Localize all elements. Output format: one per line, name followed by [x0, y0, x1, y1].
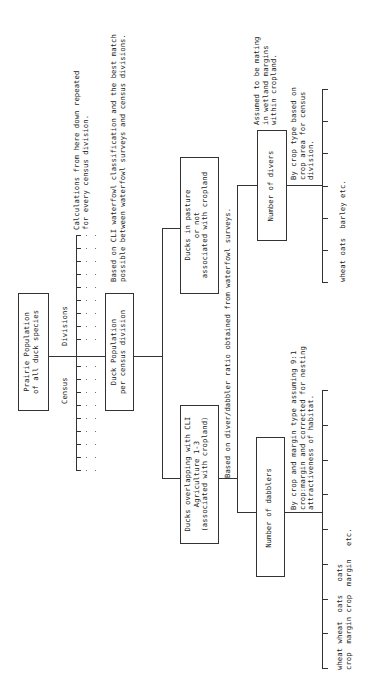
census-tick	[76, 326, 81, 327]
crop-tick	[322, 564, 328, 565]
dabblers-leaves-line2: crop margin crop margin etc.	[345, 528, 354, 670]
cli-note: Based on CLI waterfowl classification an…	[110, 34, 127, 282]
overlap-label: Ducks overlapping with CLI Agriculture 1…	[184, 408, 210, 540]
continuation-dot	[95, 300, 96, 301]
census-tick	[76, 235, 81, 236]
continuation-dot	[86, 457, 87, 458]
dabblers-note: By crop and margin type assuming 9:1 cro…	[290, 346, 316, 510]
continuation-dot	[86, 287, 87, 288]
crop-tick	[322, 599, 328, 600]
divers-label: Number of divers	[267, 150, 276, 222]
split-line-2	[237, 185, 238, 513]
divers-crop-note: By crop type based on crop area for cens…	[290, 87, 316, 180]
continuation-dot	[95, 287, 96, 288]
census-tick	[76, 457, 81, 458]
continuation-dot	[95, 366, 96, 367]
census-label: Census	[61, 377, 70, 404]
crop-tick	[322, 153, 328, 154]
continuation-dot	[95, 418, 96, 419]
continuation-dot	[86, 339, 87, 340]
crop-tick	[322, 186, 328, 187]
crop-tick	[322, 121, 328, 122]
divisions-label: Divisions	[61, 306, 70, 346]
crop-tick	[322, 668, 328, 669]
prairie-population-label: Prairie Population of all duck species	[23, 295, 40, 409]
crop-tick	[322, 425, 328, 426]
census-tick	[76, 418, 81, 419]
repeat-note: Calculations from here down repeated for…	[73, 71, 90, 230]
census-tick	[76, 379, 81, 380]
continuation-dot	[95, 235, 96, 236]
continuation-dot	[95, 248, 96, 249]
pasture-label: Ducks in pasture or not associated with …	[184, 160, 210, 290]
census-tick	[76, 274, 81, 275]
census-tick	[76, 405, 81, 406]
continuation-dot	[95, 392, 96, 393]
crop-tick	[322, 460, 328, 461]
continuation-dot	[95, 405, 96, 406]
census-tick	[76, 444, 81, 445]
connector-dabblers-out	[285, 512, 322, 513]
census-division-axis	[76, 235, 77, 471]
census-tick	[76, 431, 81, 432]
continuation-dot	[95, 274, 96, 275]
census-tick	[76, 366, 81, 367]
connector-dabblers	[237, 512, 256, 513]
continuation-dot	[95, 431, 96, 432]
census-tick	[76, 392, 81, 393]
continuation-dot	[86, 379, 87, 380]
continuation-dot	[86, 431, 87, 432]
connector-pasture	[162, 228, 180, 229]
continuation-dot	[95, 457, 96, 458]
census-tick	[76, 300, 81, 301]
crop-tick	[322, 633, 328, 634]
continuation-dot	[86, 274, 87, 275]
continuation-dot	[86, 444, 87, 445]
divers-note-top: Assumed to be mating in wetland margins …	[253, 36, 279, 125]
divers-leaves: wheat oats barley etc.	[339, 180, 348, 282]
continuation-dot	[86, 235, 87, 236]
crop-tick	[322, 390, 328, 391]
connector-divers-out	[287, 185, 323, 186]
continuation-dot	[95, 339, 96, 340]
census-tick	[76, 261, 81, 262]
census-tick	[76, 313, 81, 314]
continuation-dot	[86, 366, 87, 367]
dabblers-label: Number of dabblers	[265, 456, 274, 560]
continuation-dot	[86, 326, 87, 327]
continuation-dot	[86, 470, 87, 471]
crop-tick	[322, 529, 328, 530]
continuation-dot	[95, 444, 96, 445]
connector-duckpop	[134, 356, 162, 357]
census-tick	[76, 287, 81, 288]
continuation-dot	[86, 405, 87, 406]
continuation-dot	[95, 261, 96, 262]
continuation-dot	[86, 418, 87, 419]
census-tick	[76, 339, 81, 340]
continuation-dot	[86, 248, 87, 249]
crop-tick	[322, 282, 328, 283]
connector-divers	[237, 185, 257, 186]
continuation-dot	[95, 470, 96, 471]
split-line-1	[162, 228, 163, 479]
crop-tick	[322, 494, 328, 495]
continuation-dot	[86, 261, 87, 262]
census-tick	[76, 248, 81, 249]
crop-tick	[322, 218, 328, 219]
crop-tick	[322, 89, 328, 90]
continuation-dot	[95, 313, 96, 314]
connector-root	[49, 356, 105, 357]
ratio-note: Based on diver/dabbler ratio obtained fr…	[224, 208, 233, 478]
connector-overlap	[162, 478, 180, 479]
duck-population-label: Duck Population per census division	[110, 298, 127, 406]
continuation-dot	[86, 392, 87, 393]
census-tick	[76, 470, 81, 471]
continuation-dot	[95, 326, 96, 327]
continuation-dot	[86, 313, 87, 314]
crop-tick	[322, 250, 328, 251]
continuation-dot	[86, 300, 87, 301]
continuation-dot	[95, 379, 96, 380]
connector-overlap-out	[219, 478, 237, 479]
